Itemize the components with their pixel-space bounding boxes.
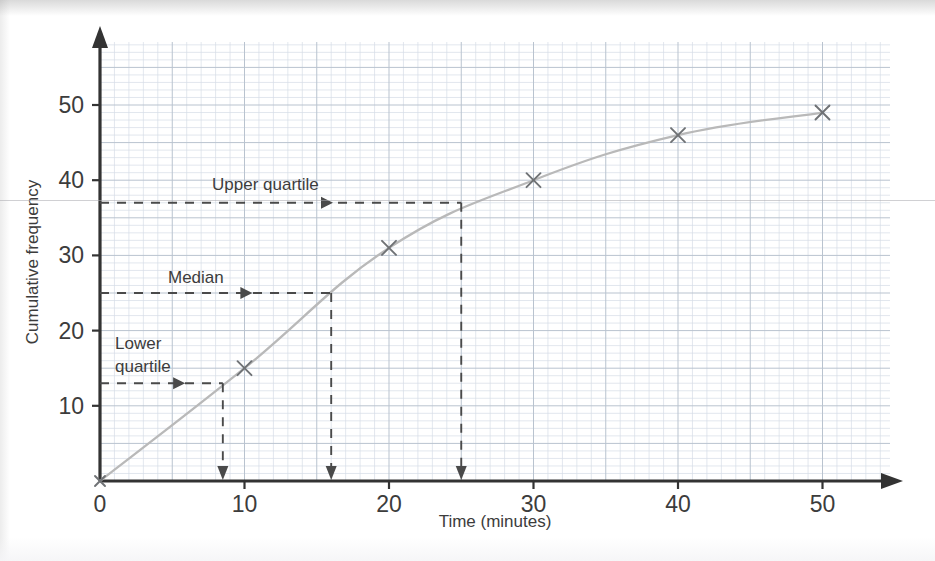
- y-axis-tick-labels: 1020304050: [58, 92, 84, 419]
- upper-quartile-label: Upper quartile: [212, 175, 319, 194]
- lower-quartile-right-arrowhead: [173, 377, 185, 389]
- x-axis-tick-label: 50: [810, 491, 836, 517]
- axis-tickmarks: [92, 105, 823, 489]
- y-axis-tick-label: 20: [58, 318, 84, 344]
- y-axis-tick-label: 30: [58, 242, 84, 268]
- median-label: Median: [168, 268, 224, 287]
- y-axis-tick-label: 50: [58, 92, 84, 118]
- y-axis-tick-label: 40: [58, 167, 84, 193]
- median-right-arrowhead: [240, 287, 252, 299]
- data-point-markers: [95, 106, 830, 486]
- grid-minor: [100, 42, 890, 481]
- y-axis-arrowhead: [92, 26, 108, 48]
- grid-major: [100, 42, 890, 481]
- x-axis-title: Time (minutes): [439, 512, 552, 531]
- median-down-arrowhead: [326, 466, 337, 480]
- x-axis-tick-label: 0: [94, 491, 107, 517]
- y-axis-title: Cumulative frequency: [23, 179, 42, 344]
- x-axis-tick-label: 40: [665, 491, 691, 517]
- x-axis-arrowhead: [881, 473, 903, 489]
- upper-quartile-down-arrowhead: [456, 466, 467, 480]
- page-background: 1020304050 01020304050 Cumulative freque…: [0, 0, 935, 561]
- x-axis-tick-label: 20: [376, 491, 402, 517]
- cumulative-frequency-chart: 1020304050 01020304050 Cumulative freque…: [0, 0, 935, 561]
- lower-quartile-down-arrowhead: [217, 466, 228, 480]
- y-axis-tick-label: 10: [58, 393, 84, 419]
- x-axis-tick-label: 10: [232, 491, 258, 517]
- lower-quartile-label-line2: quartile: [115, 357, 171, 376]
- lower-quartile-label-line1: Lower: [115, 334, 162, 353]
- axes: [92, 26, 903, 489]
